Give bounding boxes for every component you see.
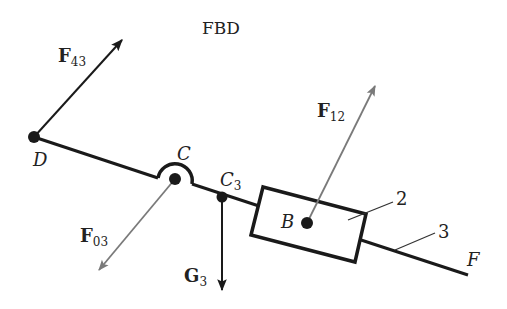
label-f12: F12 bbox=[317, 100, 345, 124]
label-d: D bbox=[32, 149, 48, 170]
free-body-diagram: FBD D C C3 B F 2 3 F43 F12 F03 G3 bbox=[0, 0, 507, 309]
label-body-2: 2 bbox=[396, 188, 407, 209]
leader-line-3 bbox=[395, 233, 435, 250]
label-b: B bbox=[280, 211, 294, 232]
link-segment-d-c bbox=[34, 137, 158, 178]
diagram-title: FBD bbox=[202, 18, 240, 38]
label-f43: F43 bbox=[58, 45, 86, 69]
label-g3: G3 bbox=[184, 265, 207, 289]
label-f03: F03 bbox=[80, 225, 108, 249]
label-c3: C3 bbox=[220, 169, 241, 193]
link-segment-box-f bbox=[358, 239, 468, 275]
label-c: C bbox=[177, 143, 191, 164]
point-c3 bbox=[217, 192, 228, 203]
force-f03-arrow bbox=[99, 179, 175, 270]
label-body-3: 3 bbox=[438, 221, 449, 242]
point-d bbox=[28, 131, 40, 143]
label-f: F bbox=[466, 249, 481, 270]
point-c bbox=[169, 173, 181, 185]
point-b bbox=[301, 217, 313, 229]
